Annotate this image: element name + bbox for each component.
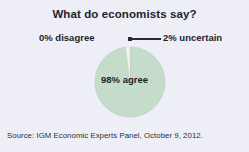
pie-label-uncertain: 2% uncertain (163, 32, 222, 43)
source-note: Source: IGM Economic Experts Panel, Octo… (7, 131, 203, 140)
pie-label-agree: 98% agree (0, 74, 249, 85)
pie-label-disagree: 0% disagree (39, 32, 94, 43)
uncertain-callout-leader (128, 38, 161, 40)
leader-line-icon (131, 38, 161, 40)
pie-chart-figure: What do economists say? 0% disagree 2% u… (0, 0, 249, 152)
page-title: What do economists say? (0, 8, 249, 20)
